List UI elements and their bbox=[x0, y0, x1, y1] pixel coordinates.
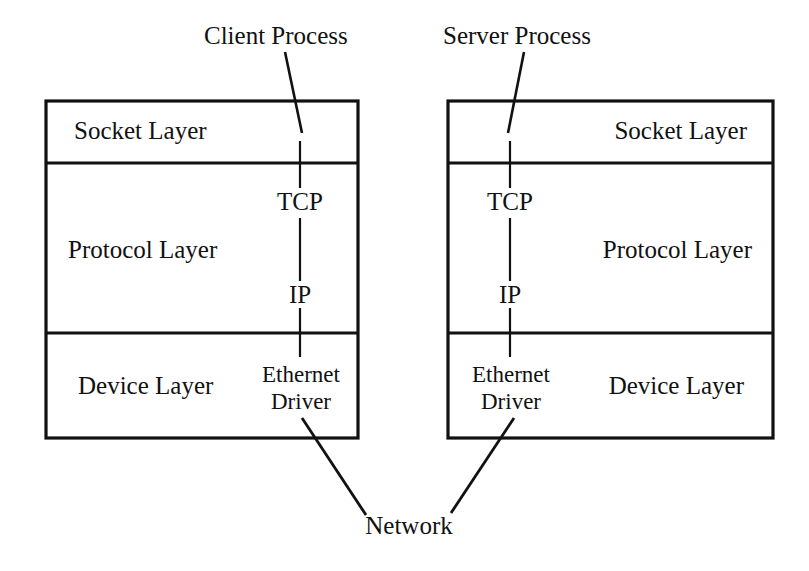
client-process-label: Client Process bbox=[204, 23, 348, 49]
server-protocol-layer-label: Protocol Layer bbox=[603, 237, 752, 263]
client-ethernet-driver-label: Ethernet Driver bbox=[262, 361, 340, 415]
client-tcp-label: TCP bbox=[277, 189, 323, 215]
server-ethernet-driver-label: Ethernet Driver bbox=[472, 361, 550, 415]
client-ip-label: IP bbox=[289, 282, 311, 308]
server-to-network-line bbox=[451, 418, 514, 513]
network-label: Network bbox=[365, 513, 452, 539]
server-ethernet-driver-line2: Driver bbox=[472, 388, 550, 415]
client-process-leader-line bbox=[285, 52, 302, 133]
diagram-lines-layer bbox=[0, 0, 809, 571]
client-ethernet-driver-line1: Ethernet bbox=[262, 361, 340, 388]
client-protocol-layer-label: Protocol Layer bbox=[68, 237, 217, 263]
server-socket-layer-label: Socket Layer bbox=[614, 118, 747, 144]
server-process-label: Server Process bbox=[443, 23, 591, 49]
client-ethernet-driver-line2: Driver bbox=[262, 388, 340, 415]
client-device-layer-label: Device Layer bbox=[78, 373, 213, 399]
server-ethernet-driver-line1: Ethernet bbox=[472, 361, 550, 388]
server-process-leader-line bbox=[508, 52, 524, 133]
client-to-network-line bbox=[302, 418, 366, 515]
server-device-layer-label: Device Layer bbox=[609, 373, 744, 399]
network-stack-diagram: Client Process Server Process Socket Lay… bbox=[0, 0, 809, 571]
client-socket-layer-label: Socket Layer bbox=[74, 118, 207, 144]
server-tcp-label: TCP bbox=[487, 189, 533, 215]
server-ip-label: IP bbox=[499, 282, 521, 308]
